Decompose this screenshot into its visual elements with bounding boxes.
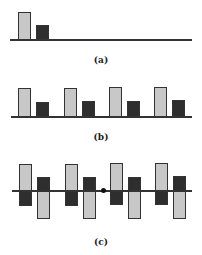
bar-light (18, 12, 31, 40)
bar-light (18, 88, 31, 117)
bar-dark (172, 100, 185, 117)
bar-dark-up (83, 177, 96, 191)
bar-dark-up (37, 177, 50, 191)
bar-light-down (128, 190, 141, 219)
bar-dark (82, 101, 95, 117)
bar-dark-down (19, 190, 32, 206)
bar-light (64, 88, 77, 117)
panel-label: (c) (0, 237, 202, 247)
bar-light-up (65, 164, 78, 191)
panel-label: (a) (0, 55, 202, 65)
bar-dark-down (155, 190, 168, 205)
bar-dark (36, 25, 49, 40)
bar-dark-down (65, 190, 78, 206)
bar-dark-down (110, 190, 123, 205)
bar-light-up (19, 164, 32, 191)
bar-light-up (155, 163, 168, 191)
bar-light (154, 87, 167, 117)
bar-dark (36, 102, 49, 117)
bar-light-up (110, 163, 123, 191)
bar-light-down (37, 190, 50, 219)
bar-light-down (83, 190, 96, 219)
baseline-axis (10, 39, 192, 41)
bar-dark-up (173, 176, 186, 191)
bar-light-down (173, 190, 186, 219)
baseline-axis (11, 116, 192, 118)
bar-light (109, 87, 122, 117)
bar-dark (127, 101, 140, 117)
bar-dark-up (128, 177, 141, 191)
panel-label: (b) (0, 132, 202, 142)
center-dot (101, 188, 106, 193)
